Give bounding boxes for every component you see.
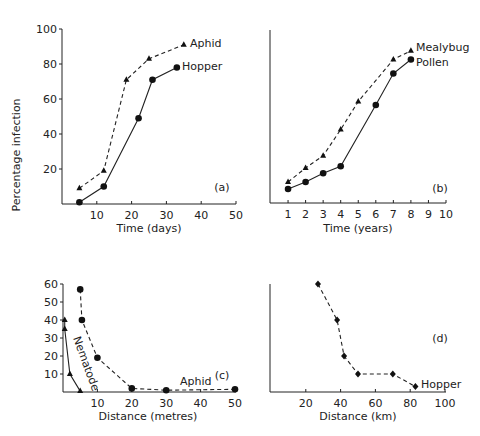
marker-triangle	[101, 167, 107, 173]
marker-circle	[285, 186, 292, 193]
y-tick-label: 30	[44, 332, 58, 345]
x-tick-label: 40	[194, 397, 208, 410]
x-tick-label: 100	[435, 397, 456, 410]
panel-b-x-title: Time (years)	[322, 222, 392, 235]
marker-circle	[408, 56, 415, 63]
x-tick-label: 10	[90, 209, 104, 222]
panel-d: 20406080100 Distance (km) (d) Hopper	[270, 281, 462, 424]
x-tick-label: 30	[159, 397, 173, 410]
x-tick-label: 20	[299, 397, 313, 410]
y-tick-label: 100	[36, 23, 57, 36]
x-tick-label: 50	[228, 397, 242, 410]
x-tick-label: 20	[125, 397, 139, 410]
x-tick-label: 20	[125, 209, 139, 222]
y-tick-label: 40	[43, 128, 57, 141]
x-tick-label: 4	[337, 208, 344, 221]
y-tick-label: 50	[44, 296, 58, 309]
panel-c: 102030405060 1020304050 Distance (metres…	[44, 278, 242, 423]
x-tick-label: 7	[390, 208, 397, 221]
panel-a: 20406080100 1020304050 Time (days) (a) A…	[36, 23, 243, 235]
y-tick-label: 60	[43, 93, 57, 106]
x-tick-label: 10	[90, 397, 104, 410]
marker-triangle	[355, 98, 361, 104]
x-tick-label: 50	[229, 209, 243, 222]
panel-d-tag: (d)	[432, 332, 448, 345]
panel-d-x-title: Distance (km)	[319, 410, 396, 423]
panel-b-tag: (b)	[432, 182, 448, 195]
x-tick-label: 30	[159, 209, 173, 222]
panel-c-tag: (c)	[215, 369, 230, 382]
marker-circle	[390, 70, 397, 77]
y-tick-label: 40	[44, 314, 58, 327]
marker-diamond	[334, 317, 340, 324]
marker-triangle	[285, 179, 291, 185]
marker-diamond	[390, 371, 396, 378]
marker-triangle	[181, 41, 187, 47]
marker-circle	[77, 286, 84, 293]
marker-triangle	[408, 47, 414, 53]
x-tick-label: 2	[302, 208, 309, 221]
marker-circle	[149, 76, 156, 83]
marker-circle	[135, 115, 142, 122]
x-tick-label: 5	[355, 208, 362, 221]
marker-circle	[232, 386, 239, 393]
series-line-hopper	[318, 284, 415, 387]
marker-circle	[100, 183, 107, 190]
x-tick-label: 6	[372, 208, 379, 221]
y-axis-title: Percentage infection	[10, 98, 23, 211]
x-tick-label: 60	[368, 397, 382, 410]
marker-circle	[94, 355, 101, 362]
marker-circle	[129, 385, 136, 392]
panel-a-legend-aphid: Aphid	[190, 37, 222, 50]
marker-circle	[302, 179, 309, 186]
marker-circle	[79, 317, 86, 324]
series-line-aphid	[79, 45, 183, 189]
series-line-hopper	[79, 68, 176, 203]
panel-d-legend-hopper: Hopper	[421, 378, 462, 391]
panel-b-legend-mealybug: Mealybug	[416, 41, 470, 54]
y-tick-label: 20	[43, 163, 57, 176]
y-tick-label: 80	[43, 58, 57, 71]
x-tick-label: 8	[407, 208, 414, 221]
marker-diamond	[315, 281, 321, 288]
marker-diamond	[412, 383, 418, 390]
y-tick-label: 60	[44, 278, 58, 291]
panel-a-legend-hopper: Hopper	[182, 60, 223, 73]
marker-circle	[337, 163, 344, 170]
marker-triangle	[67, 371, 73, 377]
panel-c-legend-nematode: Nematode	[70, 335, 102, 393]
x-tick-label: 80	[403, 397, 417, 410]
x-tick-label: 10	[439, 208, 453, 221]
panel-a-x-title: Time (days)	[116, 222, 182, 235]
panel-c-legend-aphid: Aphid	[180, 375, 212, 388]
marker-triangle	[390, 56, 396, 62]
panel-b-legend-pollen: Pollen	[416, 56, 449, 69]
x-tick-label: 1	[285, 208, 292, 221]
panel-c-x-title: Distance (metres)	[99, 410, 198, 423]
marker-circle	[320, 170, 327, 177]
marker-triangle	[303, 165, 309, 171]
marker-circle	[76, 199, 83, 206]
series-line-aphid	[80, 289, 235, 390]
y-tick-label: 10	[44, 368, 58, 381]
marker-diamond	[355, 371, 361, 378]
marker-circle	[174, 64, 181, 71]
x-tick-label: 40	[194, 209, 208, 222]
marker-circle	[373, 102, 380, 109]
marker-triangle	[76, 185, 82, 191]
marker-circle	[163, 387, 170, 394]
x-tick-label: 40	[334, 397, 348, 410]
panel-b: 12345678910 Time (years) (b) Mealybug Po…	[270, 30, 470, 235]
y-tick-label: 20	[44, 350, 58, 363]
x-tick-label: 3	[320, 208, 327, 221]
marker-triangle	[320, 152, 326, 158]
x-tick-label: 9	[425, 208, 432, 221]
panel-a-tag: (a)	[214, 181, 229, 194]
figure-canvas: Percentage infection 20406080100 1020304…	[0, 0, 480, 436]
